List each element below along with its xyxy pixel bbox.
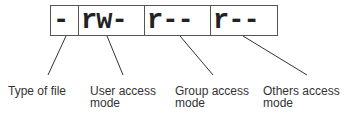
leader-line-others: [243, 36, 307, 75]
leader-line-user: [107, 36, 123, 75]
label-line-2: mode: [263, 97, 340, 109]
label-line-1: Type of file: [8, 85, 66, 97]
leader-line-type: [48, 36, 66, 75]
label-user-access-mode: User access mode: [90, 85, 156, 109]
leader-line-group: [180, 36, 213, 75]
label-group-access-mode: Group access mode: [175, 85, 249, 109]
label-line-2: mode: [175, 97, 249, 109]
label-type-of-file: Type of file: [8, 85, 66, 97]
label-others-access-mode: Others access mode: [263, 85, 340, 109]
label-line-2: mode: [90, 97, 156, 109]
